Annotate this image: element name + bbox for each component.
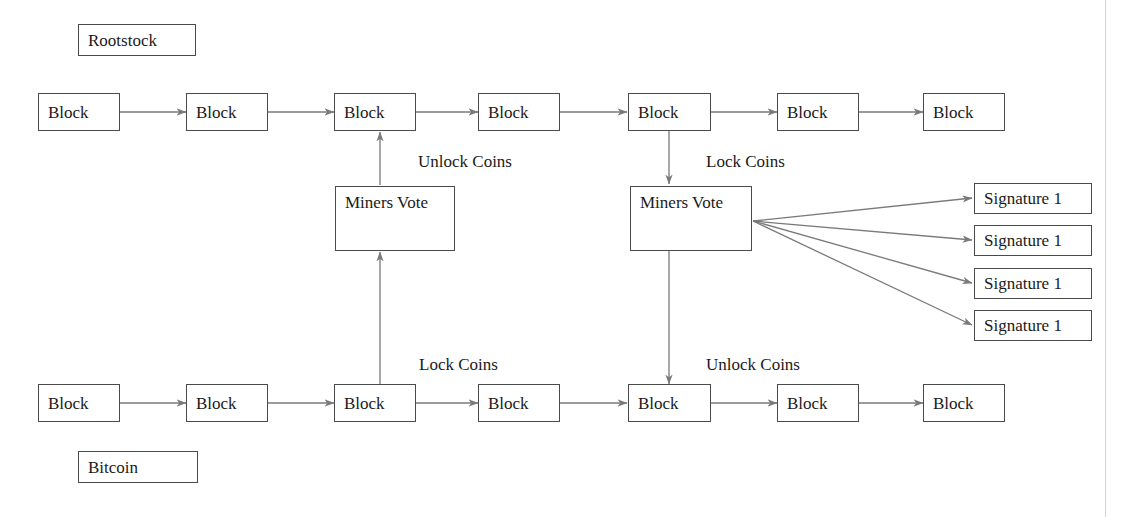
signature-box-2[interactable]: Signature 1 bbox=[974, 225, 1092, 256]
rootstock-block-3[interactable]: Block bbox=[334, 93, 416, 131]
edge-label-unlock-coins-top: Unlock Coins bbox=[418, 153, 512, 170]
miners-vote-left-label: Miners Vote bbox=[345, 193, 428, 212]
bitcoin-block-7-label: Block bbox=[933, 395, 974, 412]
signature-box-1-label: Signature 1 bbox=[984, 190, 1062, 207]
signature-box-4-label: Signature 1 bbox=[984, 317, 1062, 334]
rootstock-block-3-label: Block bbox=[344, 104, 385, 121]
bitcoin-block-3-label: Block bbox=[344, 395, 385, 412]
signature-box-3-label: Signature 1 bbox=[984, 275, 1062, 292]
miners-vote-right-label: Miners Vote bbox=[640, 193, 723, 212]
rootstock-block-4-label: Block bbox=[488, 104, 529, 121]
bitcoin-block-6[interactable]: Block bbox=[777, 384, 859, 422]
bitcoin-block-2[interactable]: Block bbox=[186, 384, 268, 422]
chain-tag-rootstock-label: Rootstock bbox=[88, 32, 157, 49]
rootstock-block-6-label: Block bbox=[787, 104, 828, 121]
bitcoin-block-1[interactable]: Block bbox=[38, 384, 120, 422]
diagram-canvas: Rootstock Bitcoin Block Block Block Bloc… bbox=[0, 0, 1129, 517]
rootstock-block-5[interactable]: Block bbox=[628, 93, 711, 131]
chain-tag-bitcoin: Bitcoin bbox=[78, 451, 198, 483]
bitcoin-block-1-label: Block bbox=[48, 395, 89, 412]
wire-miners-vote-to-signature-4 bbox=[753, 221, 972, 325]
rootstock-block-7-label: Block bbox=[933, 104, 974, 121]
rootstock-block-2[interactable]: Block bbox=[186, 93, 268, 131]
rootstock-block-1-label: Block bbox=[48, 104, 89, 121]
rootstock-block-7[interactable]: Block bbox=[923, 93, 1005, 131]
edge-label-lock-coins-bottom: Lock Coins bbox=[419, 356, 498, 373]
rootstock-block-4[interactable]: Block bbox=[478, 93, 560, 131]
wire-miners-vote-to-signature-1 bbox=[753, 198, 972, 221]
bitcoin-block-6-label: Block bbox=[787, 395, 828, 412]
miners-vote-left[interactable]: Miners Vote bbox=[335, 186, 455, 251]
signature-box-3[interactable]: Signature 1 bbox=[974, 268, 1092, 299]
signature-box-2-label: Signature 1 bbox=[984, 232, 1062, 249]
page-rule-right bbox=[1105, 0, 1106, 517]
bitcoin-block-2-label: Block bbox=[196, 395, 237, 412]
wire-miners-vote-to-signature-3 bbox=[753, 221, 972, 283]
chain-tag-rootstock: Rootstock bbox=[78, 24, 196, 56]
rootstock-block-1[interactable]: Block bbox=[38, 93, 120, 131]
rootstock-block-2-label: Block bbox=[196, 104, 237, 121]
rootstock-block-5-label: Block bbox=[638, 104, 679, 121]
bitcoin-block-5[interactable]: Block bbox=[628, 384, 711, 422]
signature-box-1[interactable]: Signature 1 bbox=[974, 183, 1092, 214]
bitcoin-block-7[interactable]: Block bbox=[923, 384, 1005, 422]
bitcoin-block-5-label: Block bbox=[638, 395, 679, 412]
miners-vote-right[interactable]: Miners Vote bbox=[630, 186, 752, 251]
rootstock-block-6[interactable]: Block bbox=[777, 93, 859, 131]
wire-miners-vote-to-signature-2 bbox=[753, 221, 972, 240]
edge-label-lock-coins-top: Lock Coins bbox=[706, 153, 785, 170]
bitcoin-block-3[interactable]: Block bbox=[334, 384, 416, 422]
connector-layer bbox=[0, 0, 1129, 517]
chain-tag-bitcoin-label: Bitcoin bbox=[88, 459, 138, 476]
bitcoin-block-4[interactable]: Block bbox=[478, 384, 560, 422]
signature-box-4[interactable]: Signature 1 bbox=[974, 310, 1092, 341]
bitcoin-block-4-label: Block bbox=[488, 395, 529, 412]
edge-label-unlock-coins-bottom: Unlock Coins bbox=[706, 356, 800, 373]
